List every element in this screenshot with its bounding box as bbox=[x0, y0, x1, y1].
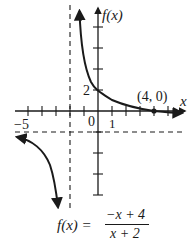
curve-left-branch bbox=[17, 137, 58, 207]
formula-numerator: −x + 4 bbox=[106, 207, 145, 223]
x-tick-label-1: 1 bbox=[109, 116, 116, 131]
x-tick-label-neg5: −5 bbox=[14, 117, 29, 132]
point-4-0 bbox=[151, 108, 156, 113]
x-axis-label: x bbox=[179, 93, 187, 109]
formula-lhs: f(x) = bbox=[57, 217, 92, 234]
origin-label: 0 bbox=[88, 114, 95, 129]
formula-denominator: x + 2 bbox=[110, 226, 140, 242]
y-tick-label-2: 2 bbox=[83, 83, 90, 98]
point-label: (4, 0) bbox=[137, 89, 168, 105]
fraction-bar bbox=[105, 224, 149, 225]
function-formula: f(x) = −x + 4 x + 2 bbox=[0, 205, 190, 245]
y-axis-label: f(x) bbox=[102, 7, 123, 24]
